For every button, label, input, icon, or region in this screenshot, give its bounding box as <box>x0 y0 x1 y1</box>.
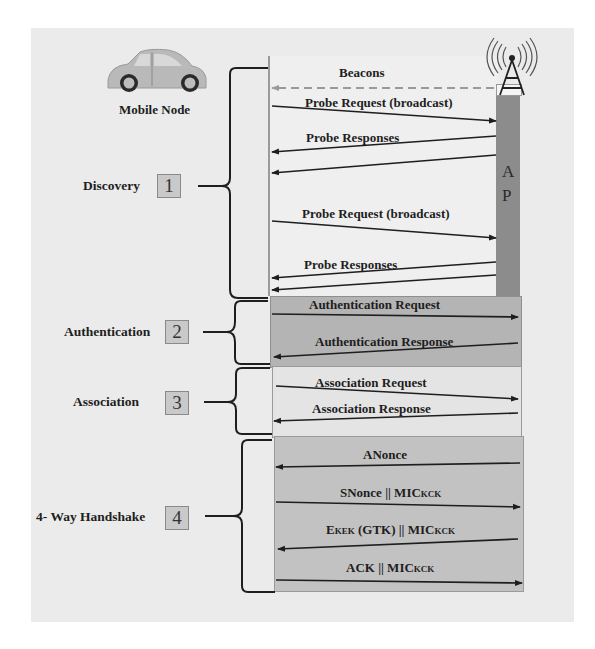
msg-probe-request-1: Probe Request (broadcast) <box>305 95 453 111</box>
msg-ack: ACK || MICKCK <box>346 560 434 576</box>
msg-ekek-sub: KEK <box>335 526 355 536</box>
msg-snonce: SNonce || MICKCK <box>340 485 441 501</box>
phase-label-4way-handshake: 4- Way Handshake <box>36 509 145 525</box>
msg-anonce: ANonce <box>363 447 407 463</box>
phase-number-4: 4 <box>165 506 189 530</box>
msg-assoc-response: Association Response <box>312 401 431 417</box>
phase-label-discovery: Discovery <box>83 178 140 194</box>
phase-number-1: 1 <box>157 174 181 198</box>
phase-number-2: 2 <box>165 320 189 344</box>
msg-ack-sub: KCK <box>414 564 435 574</box>
msg-beacons: Beacons <box>339 65 385 81</box>
msg-ekek-rest: (GTK) || MIC <box>355 522 435 537</box>
msg-probe-responses-2: Probe Responses <box>304 257 397 273</box>
msg-auth-response: Authentication Response <box>315 334 453 350</box>
msg-snonce-main: SNonce || MIC <box>340 485 421 500</box>
msg-ekek-e: E <box>326 522 335 537</box>
phase-braces <box>198 68 275 592</box>
msg-probe-responses-1: Probe Responses <box>306 130 399 146</box>
car-icon <box>108 49 206 92</box>
msg-assoc-request: Association Request <box>315 375 427 391</box>
msg-ekek-gtk: EKEK (GTK) || MICKCK <box>326 522 455 538</box>
phase-number-3: 3 <box>165 391 189 415</box>
phase-label-authentication: Authentication <box>64 324 150 340</box>
msg-probe-request-2: Probe Request (broadcast) <box>302 206 450 222</box>
mobile-node-label: Mobile Node <box>119 102 190 118</box>
msg-ekek-sub2: KCK <box>434 526 455 536</box>
phase-label-association: Association <box>73 394 139 410</box>
msg-auth-request: Authentication Request <box>309 297 440 313</box>
msg-ack-main: ACK || MIC <box>346 560 414 575</box>
antenna-tower-icon <box>487 38 537 95</box>
msg-snonce-sub: KCK <box>421 489 442 499</box>
